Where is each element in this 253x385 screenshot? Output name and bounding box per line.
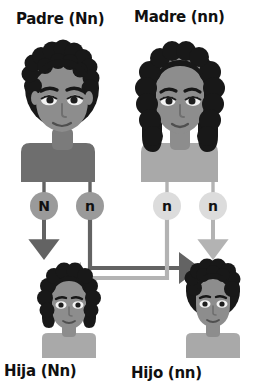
father-ear-left xyxy=(31,91,39,105)
allele-mother-left-text: n xyxy=(162,198,172,214)
allele-father-left: N xyxy=(30,192,58,220)
father-ear-right xyxy=(85,91,93,105)
arrow-father-n-to-son xyxy=(90,216,192,268)
mother-portrait xyxy=(135,41,225,182)
punnett-inheritance-diagram: Padre (Nn) Madre (nn) Hija (Nn) Hijo (nn… xyxy=(0,0,253,385)
allele-mother-left: n xyxy=(153,192,181,220)
daughter-portrait xyxy=(37,263,101,359)
allele-mother-right: n xyxy=(199,192,227,220)
allele-father-right: n xyxy=(76,192,104,220)
diagram-canvas: N n n n xyxy=(0,0,253,385)
allele-father-right-text: n xyxy=(85,198,95,214)
allele-father-left-text: N xyxy=(38,198,50,214)
father-portrait xyxy=(21,40,100,183)
allele-mother-right-text: n xyxy=(208,198,218,214)
son-portrait xyxy=(185,259,241,359)
